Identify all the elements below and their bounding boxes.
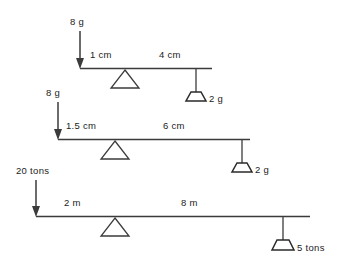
lever-1-weight-trapezoid-icon <box>186 92 206 101</box>
lever-2-load-label: 2 g <box>255 165 269 175</box>
lever-2-group <box>54 102 252 172</box>
lever-1-resistance-arm-label: 4 cm <box>159 50 181 60</box>
lever-1-load-label: 2 g <box>209 94 223 104</box>
lever-2-fulcrum-triangle-icon <box>101 141 129 159</box>
lever-1-fulcrum-triangle-icon <box>111 70 139 88</box>
lever-3-weight-trapezoid-icon <box>272 240 294 250</box>
lever-2-effort-arm-label: 1.5 cm <box>66 121 96 131</box>
lever-3-resistance-arm-label: 8 m <box>181 198 198 208</box>
lever-diagram-figure: 8 g 1 cm 4 cm 2 g 8 g 1.5 cm 6 cm 2 g 20… <box>0 0 342 267</box>
lever-2-resistance-arm-label: 6 cm <box>163 121 185 131</box>
lever-1-effort-label: 8 g <box>70 17 84 27</box>
lever-3-effort-arm-label: 2 m <box>64 198 81 208</box>
lever-2-effort-label: 8 g <box>46 88 60 98</box>
lever-2-effort-arrow-icon <box>54 102 62 140</box>
diagram-canvas <box>0 0 342 267</box>
lever-1-effort-arrow-icon <box>76 31 84 69</box>
lever-1-effort-arm-label: 1 cm <box>90 50 112 60</box>
lever-3-effort-label: 20 tons <box>16 166 49 176</box>
lever-3-effort-arrow-icon <box>32 180 40 217</box>
lever-1-group <box>76 31 212 101</box>
lever-2-weight-trapezoid-icon <box>232 163 252 172</box>
lever-3-group <box>32 180 310 250</box>
lever-3-load-label: 5 tons <box>297 243 325 253</box>
lever-3-fulcrum-triangle-icon <box>101 218 129 236</box>
